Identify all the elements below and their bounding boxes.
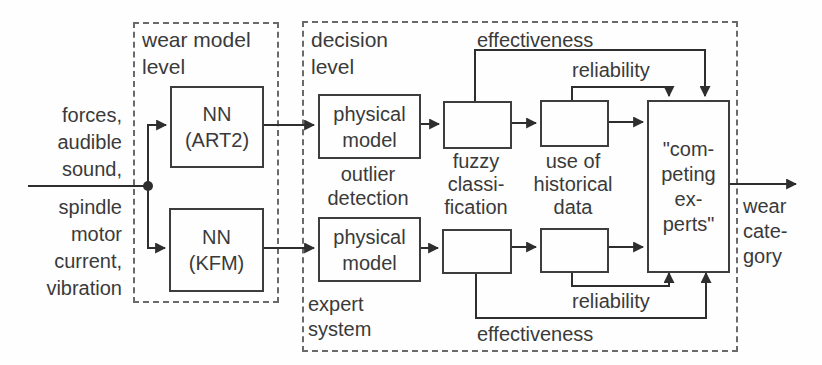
arrow-input-to-kfm	[148, 186, 165, 248]
fuzzy-classification-top-box	[443, 101, 512, 149]
outlier-detection-label: outlier detection	[318, 162, 418, 210]
input-signals-top-label: forces, audible sound,	[30, 102, 122, 183]
nn-kfm-box: NN (KFM)	[169, 208, 264, 292]
arrow-reliability-top	[572, 87, 669, 100]
decision-level-label: decision level	[311, 26, 388, 80]
block-diagram: wear model level decision level forces, …	[0, 0, 822, 365]
fuzzy-classification-bottom-box	[442, 229, 512, 274]
arrow-input-to-art2	[148, 125, 166, 186]
physical-model-bottom-box: physical model	[318, 217, 421, 282]
historical-data-top-box	[540, 100, 609, 147]
historical-data-bottom-box	[540, 228, 609, 273]
nn-art2-box: NN (ART2)	[170, 86, 264, 168]
effectiveness-top-label: effectiveness	[477, 29, 593, 52]
junction-dot	[143, 181, 153, 191]
effectiveness-bottom-label: effectiveness	[477, 323, 593, 346]
physical-model-top-box: physical model	[318, 94, 421, 159]
reliability-bottom-label: reliability	[572, 290, 650, 313]
input-signals-bottom-label: spindle motor current, vibration	[30, 194, 122, 302]
competing-experts-box: "com- peting ex- perts"	[647, 100, 730, 273]
historical-data-label: use of historical data	[523, 150, 623, 219]
wear-model-level-label: wear model level	[142, 26, 251, 80]
expert-system-label: expert system	[308, 292, 371, 342]
fuzzy-classification-label: fuzzy classi- fication	[426, 150, 526, 219]
reliability-top-label: reliability	[572, 59, 650, 82]
wear-category-output-label: wear cate- gory	[743, 194, 787, 269]
